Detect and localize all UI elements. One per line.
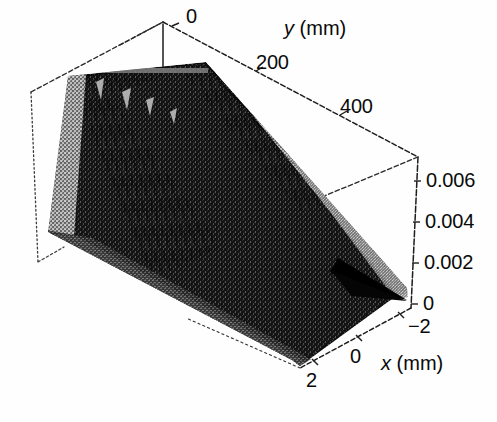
x-axis-title-unit: (mm) (397, 352, 444, 374)
surface-plot-figure: 0 200 400 y (mm) 0.006 0.004 0.002 0 −2 … (0, 0, 497, 422)
box-edge-bottom-back-left (38, 247, 64, 262)
z-axis-line (411, 157, 418, 308)
z-axis-tick-label-0006: 0.006 (426, 170, 475, 190)
surface-top-edge-ragged (72, 68, 208, 73)
x-axis-title-var: x (381, 352, 391, 374)
x-axis-tick-label-minus-2: −2 (408, 316, 430, 336)
y-axis-tick-label-200: 200 (256, 52, 289, 72)
y-axis-title-unit: (mm) (300, 17, 347, 39)
y-axis-tick-label-0: 0 (186, 6, 197, 26)
z-axis-tick-label-0002: 0.002 (424, 252, 473, 272)
y-axis-tick-label-400: 400 (340, 96, 373, 116)
x-axis-tick-label-2: 2 (306, 370, 317, 390)
y-tick-0 (172, 23, 179, 26)
x-axis-title: x (mm) (381, 353, 443, 373)
z-axis-tick-label-0: 0 (423, 293, 434, 313)
box-edge-back-left-vertical (31, 92, 38, 262)
y-axis-title-var: y (284, 17, 294, 39)
z-axis-tick-label-0004: 0.004 (425, 211, 474, 231)
y-axis-title: y (mm) (284, 18, 346, 38)
x-axis-tick-label-0: 0 (350, 346, 361, 366)
